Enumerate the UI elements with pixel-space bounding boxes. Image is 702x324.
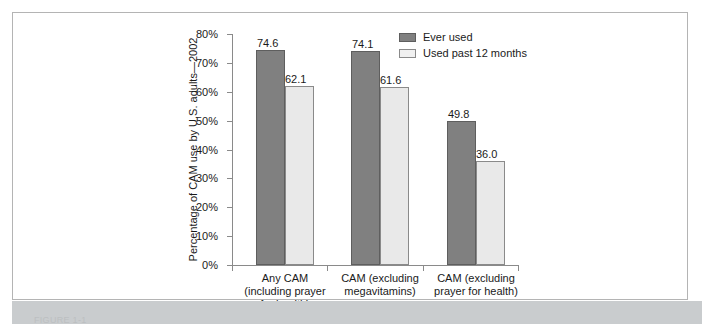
bar-ever-used: 74.6 — [256, 50, 285, 265]
legend-item-ever-used: Ever used — [399, 29, 527, 45]
bar-ever-used: 49.8 — [447, 121, 476, 265]
x-axis-category-label-line: (including prayer — [244, 285, 325, 298]
legend-swatch-ever-used-icon — [399, 33, 416, 42]
x-axis-separator-tick — [518, 266, 519, 271]
y-axis-tick: 0% — [227, 265, 232, 266]
caption-band-text: FIGURE 1-1 — [34, 315, 87, 324]
x-axis-line — [232, 265, 519, 266]
y-axis-tick: 30% — [227, 178, 232, 179]
y-axis-tick-label: 20% — [196, 201, 218, 213]
bar-used-past-12-months: 62.1 — [285, 86, 314, 265]
legend-label: Ever used — [423, 31, 473, 43]
x-axis-separator-tick — [232, 266, 233, 271]
bar-value-label: 49.8 — [448, 108, 469, 120]
y-axis-tick-label: 60% — [196, 86, 218, 98]
y-axis-tick: 50% — [227, 121, 232, 122]
y-axis-tick-label: 0% — [202, 259, 218, 271]
bar-used-past-12-months: 61.6 — [380, 87, 409, 265]
y-axis-tick: 40% — [227, 150, 232, 151]
plot-area: 80% 70% 60% 50% 40% 30% 20% 10% 0% 74.6 — [232, 34, 518, 265]
x-axis-category-label-line: CAM (excluding — [341, 272, 419, 285]
legend-swatch-used-past-12-months-icon — [399, 49, 416, 58]
x-axis-category-label: CAM (excluding prayer for health) — [434, 272, 518, 298]
y-axis-tick-label: 40% — [196, 144, 218, 156]
y-axis-tick: 70% — [227, 63, 232, 64]
y-axis-tick: 20% — [227, 207, 232, 208]
bar-value-label: 62.1 — [285, 73, 306, 85]
y-axis-tick-label: 10% — [196, 230, 218, 242]
figure-root: Percentage of CAM use by U.S. adults—200… — [0, 0, 702, 324]
x-axis-separator-tick — [423, 266, 424, 271]
y-axis-tick-label: 80% — [196, 28, 218, 40]
bar-value-label: 74.1 — [352, 38, 373, 50]
caption-band: FIGURE 1-1 — [12, 301, 702, 324]
x-axis-separator-tick — [327, 266, 328, 271]
x-axis-category-label: CAM (excluding megavitamins) — [341, 272, 419, 298]
y-axis-tick-label: 50% — [196, 115, 218, 127]
y-axis-tick: 10% — [227, 236, 232, 237]
y-axis-tick: 60% — [227, 92, 232, 93]
bar-ever-used: 74.1 — [351, 51, 380, 265]
chart-legend: Ever used Used past 12 months — [399, 29, 527, 61]
legend-item-used-past-12-months: Used past 12 months — [399, 45, 527, 61]
y-axis-tick-label: 70% — [196, 57, 218, 69]
y-axis-tick: 80% — [227, 34, 232, 35]
legend-label: Used past 12 months — [423, 47, 527, 59]
x-axis-category-label-line: CAM (excluding — [434, 272, 518, 285]
x-axis-category-label-line: prayer for health) — [434, 285, 518, 298]
x-axis-category-label-line: Any CAM — [244, 272, 325, 285]
bar-value-label: 36.0 — [476, 148, 497, 160]
y-axis-tick-label: 30% — [196, 172, 218, 184]
bar-used-past-12-months: 36.0 — [476, 161, 505, 265]
x-axis-category-label-line: megavitamins) — [341, 285, 419, 298]
bar-value-label: 74.6 — [257, 37, 278, 49]
bar-value-label: 61.6 — [380, 74, 401, 86]
